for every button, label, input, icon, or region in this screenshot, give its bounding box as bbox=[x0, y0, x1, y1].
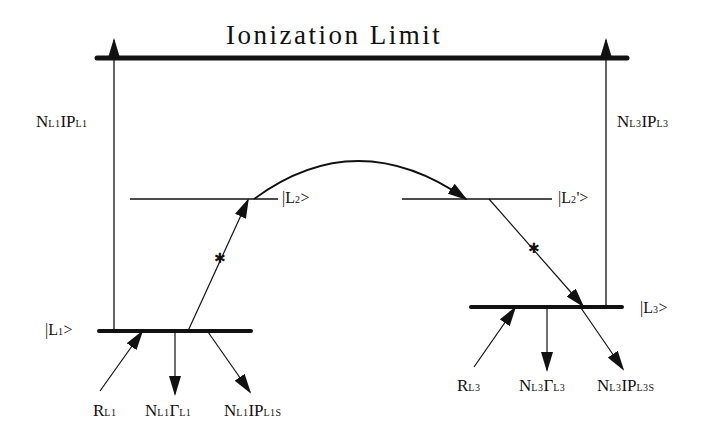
ionization-label-right: NL3IPL3 bbox=[617, 113, 669, 130]
star-marker-icon: ✱ bbox=[214, 251, 226, 266]
label-part: N bbox=[597, 376, 609, 395]
label-part: |L bbox=[640, 299, 653, 316]
label-part: R bbox=[93, 401, 104, 420]
label-sub: L3 bbox=[629, 118, 641, 129]
label-part: N bbox=[36, 112, 48, 131]
label-n-ip-l1s: NL1IPL1S bbox=[224, 402, 282, 419]
label-n-gamma-l1: NL1ΓL1 bbox=[145, 402, 191, 419]
level-label-l3: |L3> bbox=[640, 300, 668, 316]
label-part: Γ bbox=[169, 401, 179, 420]
label-sub: L1S bbox=[264, 407, 282, 418]
level-label-l2: |L2> bbox=[282, 190, 310, 206]
label-sub: L1 bbox=[157, 407, 169, 418]
rate-arrow-r-l1 bbox=[100, 332, 142, 391]
label-part: '> bbox=[576, 189, 588, 206]
ionization-label-left: NL1IPL1 bbox=[36, 113, 88, 130]
label-part: N bbox=[145, 401, 157, 420]
label-part: N bbox=[224, 401, 236, 420]
label-part: |L bbox=[45, 321, 58, 338]
label-sub: L3S bbox=[637, 382, 655, 393]
label-part: R bbox=[457, 376, 468, 395]
star-marker-icon: ✱ bbox=[528, 241, 540, 256]
label-part: N bbox=[617, 112, 629, 131]
label-sub: L3 bbox=[468, 382, 480, 393]
label-sub: L1 bbox=[48, 118, 60, 129]
label-part: > bbox=[300, 189, 309, 206]
rate-arrow-r-l3 bbox=[474, 308, 515, 367]
label-part: IP bbox=[60, 112, 75, 131]
label-n-gamma-l3: NL3ΓL3 bbox=[519, 377, 565, 394]
label-r-l3: RL3 bbox=[457, 377, 480, 394]
label-sub: L1 bbox=[179, 407, 191, 418]
energy-level-diagram: ✱ ✱ bbox=[0, 0, 716, 432]
diagram-title: Ionization Limit bbox=[226, 22, 442, 49]
label-part: Γ bbox=[543, 376, 553, 395]
label-n-ip-l3s: NL3IPL3S bbox=[597, 377, 655, 394]
label-part: IP bbox=[641, 112, 656, 131]
label-r-l1: RL1 bbox=[93, 402, 116, 419]
level-label-l2prime: |L2'> bbox=[558, 190, 588, 206]
label-part: > bbox=[658, 299, 667, 316]
label-part: IP bbox=[248, 401, 263, 420]
label-sub: L1 bbox=[104, 407, 116, 418]
label-part: N bbox=[519, 376, 531, 395]
label-part: |L bbox=[282, 189, 295, 206]
label-sub: L1 bbox=[236, 407, 248, 418]
label-sub: L3 bbox=[657, 118, 669, 129]
label-part: IP bbox=[621, 376, 636, 395]
label-sub: L3 bbox=[553, 382, 565, 393]
label-sub: L3 bbox=[609, 382, 621, 393]
label-part: > bbox=[63, 321, 72, 338]
decay-arrow-ip-l1s bbox=[208, 332, 250, 392]
label-sub: L3 bbox=[531, 382, 543, 393]
level-label-l1: |L1> bbox=[45, 322, 73, 338]
decay-arrow-ip-l3s bbox=[581, 308, 623, 369]
label-sub: L1 bbox=[76, 118, 88, 129]
label-part: |L bbox=[558, 189, 571, 206]
